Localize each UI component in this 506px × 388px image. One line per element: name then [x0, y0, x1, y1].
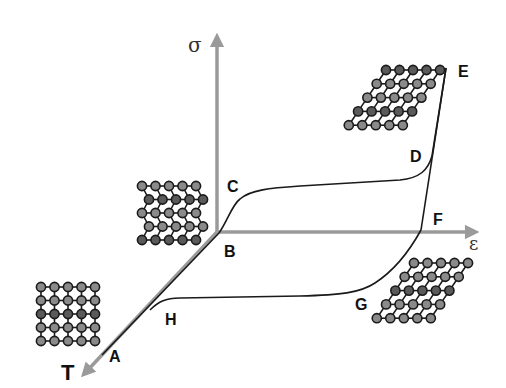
atom [385, 121, 394, 130]
atom [198, 222, 207, 231]
atom [394, 107, 403, 116]
atom [418, 286, 427, 295]
atom [50, 336, 59, 345]
atom [363, 93, 372, 102]
point-label-b: B [224, 243, 236, 260]
atom [90, 282, 99, 291]
austenite-cubic-lattice [36, 282, 99, 345]
atom [151, 235, 160, 244]
atom [463, 258, 472, 267]
atom [354, 107, 363, 116]
twinned-martensite-lattice [137, 181, 207, 244]
atom [137, 208, 146, 217]
atom [77, 282, 86, 291]
atom [395, 65, 404, 74]
point-label-f: F [433, 211, 443, 228]
atom [171, 222, 180, 231]
atom [390, 93, 399, 102]
atom [90, 296, 99, 305]
point-label-a: A [109, 348, 121, 365]
atom [423, 258, 432, 267]
point-label-g: G [355, 296, 367, 313]
stress-axis-label: σ [188, 33, 202, 57]
atom [90, 309, 99, 318]
atom [191, 181, 200, 190]
atom [158, 222, 167, 231]
atom [50, 296, 59, 305]
atom [409, 300, 418, 309]
atom [77, 336, 86, 345]
segment-B-C-D [219, 156, 432, 233]
point-label-c: C [227, 178, 239, 195]
atom [376, 93, 385, 102]
atom [137, 181, 146, 190]
atom [414, 272, 423, 281]
atom [164, 181, 173, 190]
atom [372, 79, 381, 88]
atom [381, 107, 390, 116]
atom [409, 258, 418, 267]
atom [198, 195, 207, 204]
atom [63, 309, 72, 318]
atom [151, 181, 160, 190]
atom [367, 107, 376, 116]
atom [191, 235, 200, 244]
point-label-h: H [165, 311, 177, 328]
atom [398, 121, 407, 130]
atom [386, 79, 395, 88]
segment-F-G-H [150, 230, 421, 310]
atom [413, 314, 422, 323]
atom [50, 282, 59, 291]
atom [399, 314, 408, 323]
atom [395, 300, 404, 309]
atom [431, 286, 440, 295]
atom [408, 107, 417, 116]
atom [371, 121, 380, 130]
atom [191, 208, 200, 217]
atom [36, 282, 45, 291]
atom [77, 309, 86, 318]
atom [372, 314, 381, 323]
atom [158, 195, 167, 204]
atom [382, 300, 391, 309]
atom [90, 323, 99, 332]
atom [450, 258, 459, 267]
atom [90, 336, 99, 345]
atom [435, 65, 444, 74]
atom [185, 195, 194, 204]
atom [36, 296, 45, 305]
atom [400, 272, 409, 281]
atom [164, 235, 173, 244]
atom [436, 300, 445, 309]
atom [36, 309, 45, 318]
atom [403, 93, 412, 102]
atom [344, 121, 353, 130]
sma-thermomechanical-diagram: A B C D E F G H σ ε T [0, 0, 506, 388]
atom [63, 323, 72, 332]
atom [144, 222, 153, 231]
atom [441, 272, 450, 281]
atom [358, 121, 367, 130]
atom [36, 336, 45, 345]
atom [427, 272, 436, 281]
atom [454, 272, 463, 281]
atom [178, 208, 187, 217]
atom [144, 195, 153, 204]
atom [422, 300, 431, 309]
detwinned-martensite-lattice-loaded [344, 65, 444, 129]
atom [77, 323, 86, 332]
atom [413, 79, 422, 88]
atom [178, 235, 187, 244]
atom [63, 282, 72, 291]
atom [399, 79, 408, 88]
atom [151, 208, 160, 217]
atom [50, 309, 59, 318]
atom [417, 93, 426, 102]
point-label-e: E [458, 63, 469, 80]
strain-axis-label: ε [469, 233, 478, 254]
atom [381, 65, 390, 74]
atom [436, 258, 445, 267]
atom [63, 296, 72, 305]
atom [422, 65, 431, 74]
atom [426, 314, 435, 323]
